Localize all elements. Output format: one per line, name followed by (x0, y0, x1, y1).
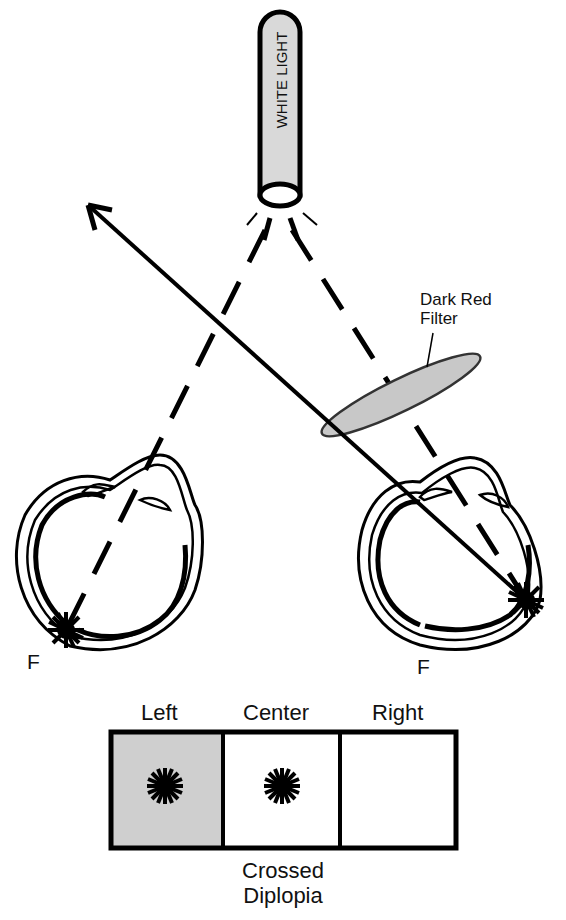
left-image-star-icon (147, 768, 183, 804)
right-eye (359, 458, 541, 650)
light-rays-icon (247, 213, 317, 240)
filter-label-line2: Filter (420, 309, 492, 328)
column-label-center: Center (243, 700, 309, 726)
filter-label-line1: Dark Red (420, 290, 492, 309)
filter-label: Dark Red Filter (420, 290, 492, 328)
right-fovea-label: F (417, 655, 430, 679)
left-fovea-label: F (27, 650, 40, 674)
caption-line1: Crossed (183, 858, 383, 883)
diagnosis-caption: Crossed Diplopia (183, 858, 383, 908)
left-fovea-star-icon (48, 612, 84, 648)
white-light-label: WHITE LIGHT (273, 32, 290, 129)
center-image-star-icon (264, 768, 300, 804)
column-label-left: Left (141, 700, 178, 726)
caption-line2: Diplopia (183, 883, 383, 908)
right-eye-light-path (292, 230, 526, 600)
right-fovea-star-icon (508, 582, 544, 618)
diagram-canvas (0, 0, 566, 920)
left-eye-light-path (66, 230, 265, 630)
left-eye (16, 455, 202, 649)
projection-arrow (88, 205, 526, 600)
column-label-right: Right (372, 700, 423, 726)
